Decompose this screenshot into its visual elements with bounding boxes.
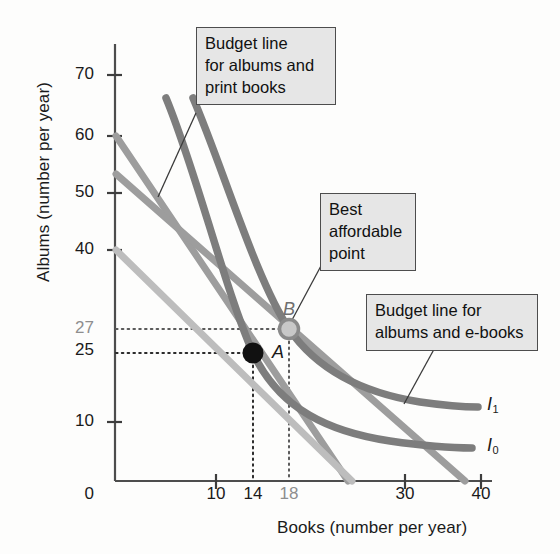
curve-label-i0-base: I bbox=[487, 435, 492, 455]
x-axis-title: Books (number per year) bbox=[277, 518, 467, 538]
curve-label-i0: I0 bbox=[487, 435, 498, 456]
y-tick-label-27: 27 bbox=[54, 318, 94, 338]
y-tick-label-50: 50 bbox=[54, 182, 94, 202]
curve-label-i1-base: I bbox=[487, 394, 492, 414]
y-tick-label-0: 0 bbox=[54, 484, 94, 504]
point-label-a: A bbox=[272, 342, 284, 363]
curve-label-i0-sub: 0 bbox=[493, 444, 499, 456]
point-label-b: B bbox=[283, 299, 295, 320]
y-tick-label-10: 10 bbox=[54, 411, 94, 431]
y-tick-label-60: 60 bbox=[54, 125, 94, 145]
indifference-curves bbox=[166, 98, 478, 448]
point-a-marker bbox=[243, 343, 264, 364]
y-tick-label-40: 40 bbox=[54, 239, 94, 259]
x-tick-label-14: 14 bbox=[233, 484, 273, 504]
y-tick-label-70: 70 bbox=[54, 64, 94, 84]
callout-best-affordable-point: Best affordable point bbox=[320, 193, 416, 271]
callout-budget-line-ebooks: Budget line for albums and e-books bbox=[366, 294, 538, 351]
y-tick-label-25: 25 bbox=[54, 340, 94, 360]
callout-budget-line-print-books: Budget line for albums and print books bbox=[196, 27, 336, 105]
leader-best-point bbox=[292, 264, 322, 320]
leader-budget-ebook bbox=[404, 342, 438, 404]
curve-label-i1: I1 bbox=[487, 394, 498, 415]
x-tick-label-40: 40 bbox=[461, 484, 501, 504]
chart-figure: Albums (number per year) Books (number p… bbox=[0, 0, 560, 554]
x-tick-label-18: 18 bbox=[269, 484, 309, 504]
y-axis-title: Albums (number per year) bbox=[34, 52, 54, 312]
x-tick-label-10: 10 bbox=[196, 484, 236, 504]
budget-line-print-books bbox=[116, 250, 352, 481]
x-tick-label-30: 30 bbox=[385, 484, 425, 504]
point-b-marker bbox=[280, 320, 299, 339]
curve-label-i1-sub: 1 bbox=[493, 403, 499, 415]
